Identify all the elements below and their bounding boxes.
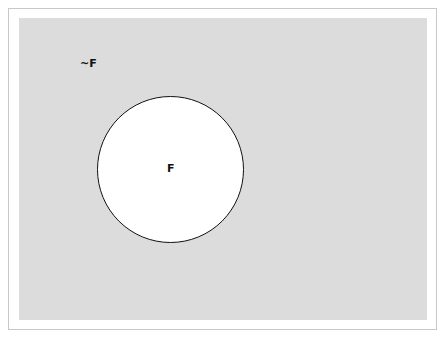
complement-label: ~F xyxy=(80,57,97,70)
set-f-label: F xyxy=(167,162,175,175)
